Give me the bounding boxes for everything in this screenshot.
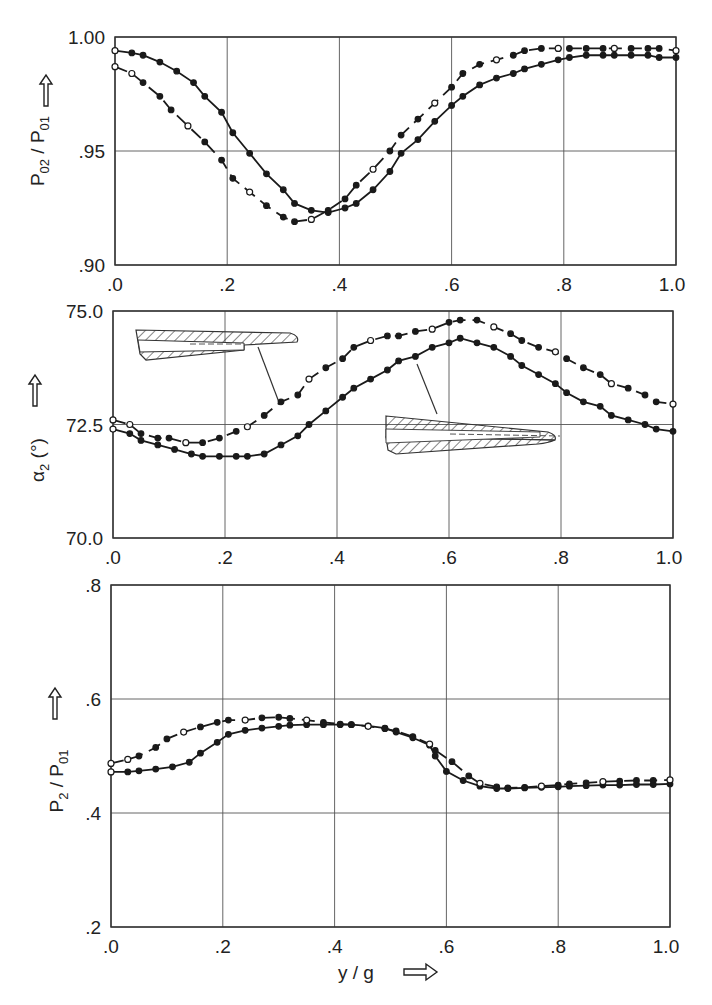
x-tick-label: .2 bbox=[217, 547, 233, 568]
filled-marker bbox=[233, 429, 239, 435]
filled-marker bbox=[385, 367, 391, 373]
filled-marker bbox=[508, 354, 514, 360]
filled-marker bbox=[226, 717, 232, 723]
filled-marker bbox=[511, 52, 517, 58]
filled-marker bbox=[460, 778, 466, 784]
series-line-dashed bbox=[111, 717, 670, 788]
y-tick-label: 72.5 bbox=[66, 415, 103, 436]
filled-marker bbox=[583, 52, 589, 58]
filled-marker bbox=[567, 781, 573, 787]
filled-marker bbox=[155, 442, 161, 448]
filled-marker bbox=[597, 372, 603, 378]
x-tick-label: .2 bbox=[219, 274, 235, 295]
data-series bbox=[112, 45, 679, 224]
open-marker bbox=[432, 100, 438, 106]
open-marker bbox=[600, 779, 606, 785]
open-marker bbox=[244, 424, 250, 430]
open-marker bbox=[247, 189, 253, 195]
open-marker bbox=[370, 166, 376, 172]
filled-marker bbox=[553, 381, 559, 387]
svg-text:y / g: y / g bbox=[338, 962, 374, 983]
filled-marker bbox=[217, 453, 223, 459]
x-axis-label: y / g bbox=[338, 962, 437, 983]
filled-marker bbox=[617, 778, 623, 784]
open-marker bbox=[673, 48, 679, 54]
leader-line bbox=[258, 347, 280, 405]
filled-marker bbox=[342, 196, 348, 202]
filled-marker bbox=[202, 93, 208, 99]
filled-marker bbox=[609, 413, 615, 419]
filled-marker bbox=[511, 71, 517, 77]
blade-sketch-lower bbox=[386, 364, 560, 454]
filled-marker bbox=[155, 435, 161, 441]
y-tick-label: .6 bbox=[85, 689, 101, 710]
x-tick-label: .6 bbox=[441, 547, 457, 568]
x-tick-labels: .0.2.4.6.81.0 bbox=[107, 274, 685, 295]
filled-marker bbox=[325, 207, 331, 213]
filled-marker bbox=[449, 103, 455, 109]
filled-marker bbox=[429, 345, 435, 351]
filled-marker bbox=[522, 48, 528, 54]
filled-marker bbox=[219, 157, 225, 163]
open-marker bbox=[108, 760, 114, 766]
chart-panel-static-pressure: .2.4.6.8 .0.2.4.6.81.0 P2 / P01 y / g bbox=[46, 575, 679, 983]
filled-marker bbox=[170, 764, 176, 770]
open-marker bbox=[611, 45, 617, 51]
open-marker bbox=[112, 48, 118, 54]
filled-marker bbox=[653, 399, 659, 405]
filled-marker bbox=[432, 748, 438, 754]
filled-marker bbox=[351, 345, 357, 351]
filled-marker bbox=[186, 759, 192, 765]
filled-marker bbox=[230, 130, 236, 136]
svg-text:P02 / P01: P02 / P01 bbox=[27, 116, 52, 186]
filled-marker bbox=[625, 417, 631, 423]
filled-marker bbox=[353, 201, 359, 207]
filled-marker bbox=[656, 55, 662, 61]
x-tick-label: 1.0 bbox=[653, 936, 679, 957]
filled-marker bbox=[127, 431, 133, 437]
filled-marker bbox=[287, 716, 293, 722]
filled-marker bbox=[387, 169, 393, 175]
filled-marker bbox=[245, 453, 251, 459]
filled-marker bbox=[136, 753, 142, 759]
filled-marker bbox=[281, 187, 287, 193]
filled-marker bbox=[153, 745, 159, 751]
gridlines bbox=[111, 585, 670, 927]
svg-text:α2 (°): α2 (°) bbox=[27, 438, 52, 482]
x-tick-label: .4 bbox=[329, 547, 345, 568]
open-marker bbox=[185, 123, 191, 129]
y-tick-label: .2 bbox=[85, 917, 101, 938]
filled-marker bbox=[261, 413, 267, 419]
filled-marker bbox=[214, 740, 220, 746]
open-marker bbox=[308, 216, 314, 222]
filled-marker bbox=[446, 340, 452, 346]
y-axis-label: P2 / P01 bbox=[46, 750, 71, 813]
filled-marker bbox=[382, 726, 388, 732]
filled-marker bbox=[444, 769, 450, 775]
x-tick-label: .0 bbox=[107, 274, 123, 295]
filled-marker bbox=[398, 132, 404, 138]
filled-marker bbox=[581, 365, 587, 371]
filled-marker bbox=[191, 80, 197, 86]
filled-marker bbox=[261, 451, 267, 457]
y-tick-labels: .2.4.6.8 bbox=[85, 575, 101, 938]
filled-marker bbox=[642, 392, 648, 398]
filled-marker bbox=[564, 356, 570, 362]
open-marker bbox=[110, 426, 116, 432]
y-tick-label: .95 bbox=[79, 141, 105, 162]
open-marker bbox=[608, 381, 614, 387]
open-marker bbox=[125, 756, 131, 762]
filled-marker bbox=[597, 404, 603, 410]
filled-marker bbox=[385, 333, 391, 339]
plot-frame bbox=[111, 585, 670, 927]
filled-marker bbox=[174, 68, 180, 74]
x-tick-label: .4 bbox=[331, 274, 347, 295]
filled-marker bbox=[474, 317, 480, 323]
filled-marker bbox=[136, 768, 142, 774]
x-tick-label: .0 bbox=[103, 936, 119, 957]
filled-marker bbox=[337, 721, 343, 727]
filled-marker bbox=[351, 385, 357, 391]
x-tick-label: .8 bbox=[550, 936, 566, 957]
filled-marker bbox=[200, 453, 206, 459]
filled-marker bbox=[432, 119, 438, 125]
